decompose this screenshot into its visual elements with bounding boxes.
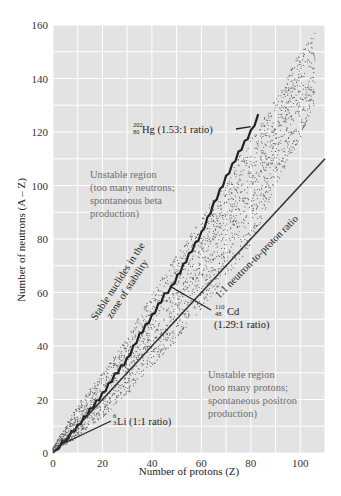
nuclide-dot (125, 393, 126, 394)
nuclide-dot (268, 135, 269, 136)
nuclide-dot (160, 350, 161, 351)
nuclide-dot (129, 386, 130, 387)
nuclide-dot (222, 263, 223, 264)
nuclide-dot (116, 380, 117, 381)
nuclide-dot (74, 417, 75, 418)
nuclide-dot (266, 132, 267, 133)
nuclide-dot (171, 313, 172, 314)
nuclide-dot (298, 141, 299, 142)
nuclide-dot (215, 221, 216, 222)
nuclide-dot (305, 87, 306, 88)
nuclide-dot (146, 367, 147, 368)
nuclide-dot (133, 383, 134, 384)
nuclide-dot (149, 339, 150, 340)
nuclide-dot (264, 153, 265, 154)
nuclide-dot (279, 123, 280, 124)
nuclide-dot (114, 365, 115, 366)
nuclide-dot (195, 238, 196, 239)
nuclide-dot (246, 160, 247, 161)
nuclide-dot (153, 298, 154, 299)
nuclide-dot (158, 354, 159, 355)
nuclide-dot (107, 373, 108, 374)
nuclide-dot (287, 114, 288, 115)
nuclide-dot (219, 216, 220, 217)
nuclide-dot (173, 297, 174, 298)
nuclide-dot (205, 244, 206, 245)
nuclide-dot (247, 181, 248, 182)
nuclide-dot (145, 306, 146, 307)
nuclide-dot (289, 76, 290, 77)
nuclide-dot (209, 237, 210, 238)
nuclide-dot (231, 247, 232, 248)
nuclide-dot (229, 189, 230, 190)
nuclide-dot (182, 309, 183, 310)
nuclide-dot (221, 212, 222, 213)
nuclide-dot (271, 160, 272, 161)
nuclide-dot (170, 345, 171, 346)
nuclide-dot (192, 278, 193, 279)
nuclide-dot (171, 275, 172, 276)
nuclide-dot (87, 396, 88, 397)
nuclide-dot (289, 106, 290, 107)
nuclide-dot (166, 274, 167, 275)
nuclide-dot (168, 283, 169, 284)
nuclide-dot (254, 204, 255, 205)
nuclide-dot (185, 255, 186, 256)
nuclide-dot (264, 125, 265, 126)
nuclide-dot (252, 175, 253, 176)
nuclide-dot (294, 80, 295, 81)
nuclide-dot (223, 265, 224, 266)
nuclide-dot (68, 430, 69, 431)
nuclide-dot (152, 298, 153, 299)
nuclide-dot (240, 214, 241, 215)
nuclide-dot (209, 274, 210, 275)
nuclide-dot (73, 422, 74, 423)
nuclide-dot (230, 188, 231, 189)
nuclide-dot (274, 177, 275, 178)
nuclide-dot (305, 118, 306, 119)
nuclide-dot (174, 333, 175, 334)
nuclide-dot (235, 217, 236, 218)
nuclide-dot (111, 363, 112, 364)
nuclide-dot (276, 133, 277, 134)
nuclide-dot (106, 371, 107, 372)
nuclide-dot (119, 385, 120, 386)
nuclide-dot (281, 110, 282, 111)
nuclide-dot (235, 209, 236, 210)
nuclide-dot (147, 310, 148, 311)
nuclide-dot (308, 86, 309, 87)
nuclide-dot (124, 355, 125, 356)
nuclide-dot (291, 146, 292, 147)
nuclide-dot (175, 273, 176, 274)
nuclide-dot (291, 116, 292, 117)
nuclide-dot (284, 89, 285, 90)
nuclide-dot (177, 298, 178, 299)
nuclide-dot (179, 299, 180, 300)
nuclide-dot (219, 227, 220, 228)
nuclide-dot (145, 348, 146, 349)
nuclide-dot (207, 240, 208, 241)
nuclide-dot (278, 163, 279, 164)
nuclide-dot (104, 409, 105, 410)
nuclide-dot (207, 250, 208, 251)
nuclide-dot (233, 224, 234, 225)
nuclide-dot (111, 408, 112, 409)
nuclide-dot (300, 106, 301, 107)
nuclide-dot (106, 414, 107, 415)
nuclide-dot (183, 289, 184, 290)
nuclide-dot (96, 395, 97, 396)
nuclide-dot (224, 260, 225, 261)
nuclide-dot (171, 306, 172, 307)
nuclide-dot (129, 382, 130, 383)
nuclide-dot (126, 391, 127, 392)
nuclide-dot (126, 394, 127, 395)
nuclide-dot (305, 49, 306, 50)
nuclide-dot (252, 205, 253, 206)
nuclide-dot (129, 381, 130, 382)
nuclide-dot (295, 113, 296, 114)
cd-mass-number: 110 (215, 303, 225, 310)
nuclide-dot (234, 224, 235, 225)
nuclide-dot (72, 425, 73, 426)
nuclide-dot (212, 255, 213, 256)
nuclide-dot (213, 226, 214, 227)
